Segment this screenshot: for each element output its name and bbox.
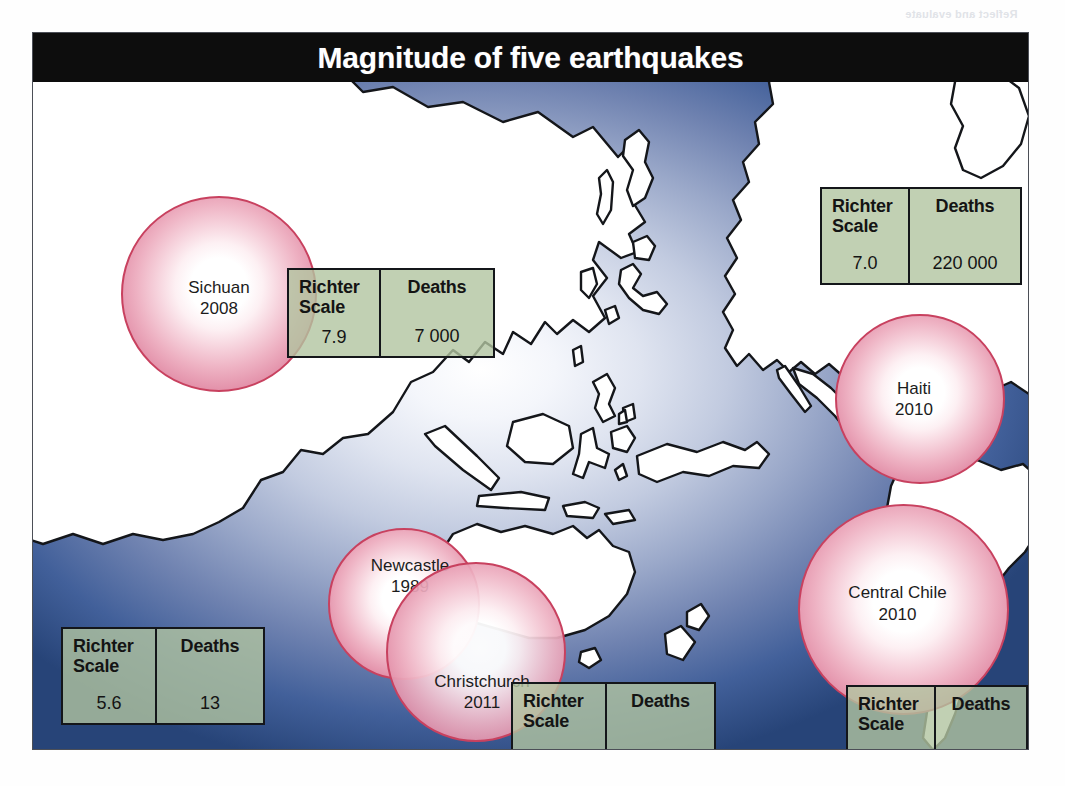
page-canvas: Reflect and evaluate Explore relationshi… <box>0 0 1065 786</box>
table-header-richter-line1: Richter <box>73 636 134 656</box>
page-title: Magnitude of five earthquakes <box>33 33 1028 82</box>
land-palau <box>619 410 627 424</box>
table-value-richter: 7.9 <box>299 317 369 348</box>
data-table-christchurch: Richter Scale 6.3 Deaths 185 <box>511 682 716 749</box>
table-column-richter: Richter Scale 5.6 <box>63 629 157 723</box>
table-header-richter: Richter Scale <box>299 277 369 317</box>
table-header-deaths: Deaths <box>617 691 704 711</box>
table-column-deaths: Deaths 185 <box>607 684 714 749</box>
land-taiwan <box>573 346 583 366</box>
bubble-year-sichuan: 2008 <box>188 298 249 319</box>
ghost-text-top: Reflect and evaluate <box>905 8 1017 20</box>
bubble-year-central-chile: 2010 <box>848 604 946 625</box>
table-value-richter: 5.6 <box>73 683 145 714</box>
data-table-sichuan: Richter Scale 7.9 Deaths 7 000 <box>287 268 495 358</box>
table-header-richter-line2: Scale <box>832 216 878 236</box>
data-table-haiti: Richter Scale 7.0 Deaths 220 000 <box>820 187 1022 285</box>
table-header-richter-line2: Scale <box>299 297 345 317</box>
table-header-richter: Richter Scale <box>73 636 145 676</box>
table-header-richter-line2: Scale <box>73 656 119 676</box>
bubble-label-central-chile: Central Chile 2010 <box>848 582 946 625</box>
bubble-central-chile[interactable]: Central Chile 2010 <box>798 504 1009 715</box>
table-header-richter-line1: Richter <box>523 691 584 711</box>
bubble-label-haiti: Haiti 2010 <box>895 378 933 421</box>
table-header-richter: Richter Scale <box>832 196 898 236</box>
table-column-richter: Richter Scale 7.9 <box>289 270 381 356</box>
table-column-deaths: Deaths 7 000 <box>381 270 493 356</box>
table-value-richter: 6.3 <box>523 740 595 749</box>
table-header-deaths: Deaths <box>391 277 483 297</box>
table-column-richter: Richter Scale 6.3 <box>513 684 607 749</box>
title-bar: Magnitude of five earthquakes <box>33 33 1028 82</box>
table-value-deaths: 220 000 <box>920 243 1010 274</box>
data-table-newcastle: Richter Scale 5.6 Deaths 13 <box>61 627 265 725</box>
bubble-year-haiti: 2010 <box>895 399 933 420</box>
table-header-deaths: Deaths <box>920 196 1010 216</box>
table-header-richter-line1: Richter <box>832 196 893 216</box>
table-value-deaths: 525 <box>946 743 1016 749</box>
table-column-deaths: Deaths 220 000 <box>910 189 1020 283</box>
table-value-deaths: 13 <box>167 683 253 714</box>
bubble-place-central-chile: Central Chile <box>848 582 946 603</box>
bubble-place-sichuan: Sichuan <box>188 277 249 298</box>
table-header-richter-line1: Richter <box>299 277 360 297</box>
table-header-deaths: Deaths <box>946 694 1016 714</box>
table-header-richter-line2: Scale <box>523 711 569 731</box>
bubble-haiti[interactable]: Haiti 2010 <box>835 314 1005 484</box>
table-header-richter: Richter Scale <box>523 691 595 731</box>
land-lesser-sunda <box>563 502 599 518</box>
table-header-deaths: Deaths <box>167 636 253 656</box>
table-value-deaths: 7 000 <box>391 316 483 347</box>
table-header-richter-line1: Richter <box>858 694 919 714</box>
earthquake-figure: Magnitude of five earthquakes <box>32 32 1029 750</box>
table-value-richter: 8.8 <box>858 743 924 749</box>
data-table-central-chile: Richter Scale 8.8 Deaths 525 <box>846 685 1028 749</box>
table-header-richter-line2: Scale <box>858 714 904 734</box>
world-map: Sichuan 2008 Newcastle 1989 Christchurch… <box>33 82 1028 749</box>
land-java <box>477 492 549 510</box>
table-column-richter: Richter Scale 7.0 <box>822 189 910 283</box>
bubble-label-sichuan: Sichuan 2008 <box>188 277 249 320</box>
table-column-deaths: Deaths 13 <box>157 629 263 723</box>
table-value-deaths: 185 <box>617 740 704 749</box>
table-column-richter: Richter Scale 8.8 <box>848 687 936 749</box>
table-column-deaths: Deaths 525 <box>936 687 1026 749</box>
bubble-place-haiti: Haiti <box>895 378 933 399</box>
table-value-richter: 7.0 <box>832 243 898 274</box>
table-header-richter: Richter Scale <box>858 694 924 734</box>
